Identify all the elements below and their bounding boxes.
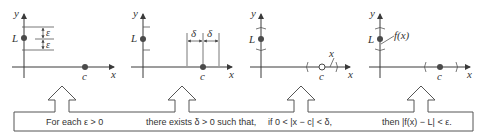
delta-right-label: δ: [207, 27, 213, 39]
c-label: c: [82, 70, 87, 82]
x-axis-label: x: [347, 68, 353, 80]
panel-fx: y x L f(x) c: [367, 7, 472, 82]
fx-pointer-line: [381, 36, 394, 44]
c-label: c: [319, 70, 324, 82]
L-point: [377, 36, 383, 42]
epsilon-upper-label: ε: [46, 27, 50, 38]
c-label: c: [437, 70, 442, 82]
statement-box: For each ε > 0 there exists δ > 0 such t…: [14, 86, 473, 131]
L-label: L: [130, 32, 137, 44]
x-pointer-line: [330, 58, 334, 67]
L-label: L: [248, 33, 255, 45]
x-point-label: x: [328, 47, 334, 59]
panel-delta: y x L c δ δ: [130, 7, 234, 82]
x-axis-label: x: [466, 68, 472, 80]
fx-label: f(x): [394, 29, 410, 42]
epsilon-delta-diagram: y x L c ε ε y x L c δ δ: [0, 0, 483, 139]
c-label: c: [200, 70, 205, 82]
y-axis-label: y: [13, 7, 19, 19]
panel-epsilon: y x L c ε ε: [11, 7, 116, 82]
statement-then-conclusion: then |f(x) − L| < ε.: [382, 117, 452, 127]
y-axis-label: y: [132, 7, 138, 19]
statement-exists-delta: there exists δ > 0 such that,: [146, 117, 256, 127]
delta-left-label: δ: [191, 27, 197, 39]
epsilon-lower-label: ε: [46, 39, 50, 50]
y-axis-label: y: [369, 7, 375, 19]
L-point: [258, 36, 264, 42]
y-axis-label: y: [250, 7, 256, 19]
x-axis-label: x: [110, 68, 116, 80]
panel-x-interval: y x L c x: [248, 7, 353, 82]
L-point: [21, 35, 27, 41]
L-point: [140, 36, 146, 42]
statement-for-each-epsilon: For each ε > 0: [46, 117, 103, 127]
L-label: L: [367, 33, 374, 45]
L-label: L: [11, 32, 18, 44]
x-axis-label: x: [228, 68, 234, 80]
statement-if-condition: if 0 < |x − c| < δ,: [268, 117, 332, 127]
